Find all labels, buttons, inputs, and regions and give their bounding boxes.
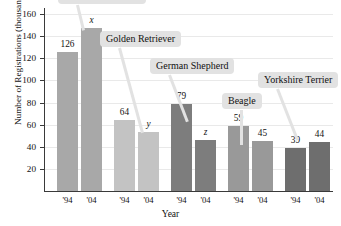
x-tick-label: '94	[176, 195, 186, 205]
y-tick-label: 120	[6, 53, 36, 63]
y-tick-label: 140	[6, 31, 36, 41]
x-tick-label: '94	[62, 195, 72, 205]
y-tick-label: 160	[6, 9, 36, 19]
bar	[285, 148, 306, 191]
x-tick-label: '04	[86, 195, 96, 205]
bar-value-label: y	[146, 119, 150, 129]
y-axis-title: Number of Registrations (thousands)	[13, 0, 23, 127]
y-tick-mark	[40, 103, 44, 104]
y-tick-mark	[40, 14, 44, 15]
breed-callout-label: Golden Retriever	[100, 31, 181, 47]
y-tick-mark	[40, 36, 44, 37]
breed-callout-label: Labrador Retriever	[58, 0, 146, 4]
y-tick-mark	[40, 80, 44, 81]
breed-callout-label: Beagle	[222, 93, 262, 109]
bar	[57, 52, 78, 191]
y-tick-mark	[40, 58, 44, 59]
y-tick-label: 20	[6, 164, 36, 174]
bar-value-label: 126	[61, 39, 75, 49]
x-axis-line	[44, 191, 333, 192]
y-tick-label: 60	[6, 120, 36, 130]
x-tick-label: '04	[257, 195, 267, 205]
x-tick-label: '04	[143, 195, 153, 205]
y-tick-mark	[40, 125, 44, 126]
x-tick-label: '04	[200, 195, 210, 205]
bar-chart: Number of Registrations (thousands) 2040…	[0, 0, 341, 226]
x-tick-label: '94	[290, 195, 300, 205]
bar-value-label: x	[89, 15, 93, 25]
x-tick-label: '94	[119, 195, 129, 205]
bar-value-label: 45	[258, 128, 267, 138]
bar	[252, 141, 273, 191]
bar-value-label: z	[204, 127, 208, 137]
bar	[228, 126, 249, 191]
y-tick-mark	[40, 169, 44, 170]
y-tick-label: 80	[6, 98, 36, 108]
breed-callout-label: Yorkshire Terrier	[258, 72, 338, 88]
bar	[195, 140, 216, 191]
x-tick-label: '94	[233, 195, 243, 205]
x-axis-title: Year	[0, 209, 341, 219]
gridline	[45, 14, 333, 15]
bar	[171, 104, 192, 191]
y-tick-mark	[40, 147, 44, 148]
bar	[81, 28, 102, 191]
bar-value-label: 44	[315, 129, 324, 139]
bar	[114, 120, 135, 191]
callout-leader-line	[240, 110, 243, 145]
bar-value-label: 64	[120, 107, 129, 117]
plot-area: 20406080100120140160 126x64y79z59453944 …	[44, 8, 333, 192]
y-tick-label: 100	[6, 75, 36, 85]
bar	[309, 142, 330, 191]
x-tick-label: '04	[314, 195, 324, 205]
breed-callout-label: German Shepherd	[150, 58, 234, 74]
bar	[138, 132, 159, 191]
y-tick-label: 40	[6, 142, 36, 152]
